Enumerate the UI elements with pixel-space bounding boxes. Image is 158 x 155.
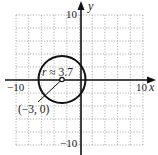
x-min-tick-label: −10 (7, 81, 25, 93)
x-axis-label: x (148, 80, 155, 94)
y-axis-label: y (87, 0, 94, 13)
radius-annotation: r ≈ 3.7 (42, 66, 73, 78)
circle-graph: −10 10 10 −10 x y r ≈ 3.7 (−3, 0) (0, 0, 158, 155)
x-max-tick-label: 10 (136, 81, 148, 93)
y-min-tick-label: −10 (60, 137, 78, 149)
y-axis-arrow-icon (78, 1, 85, 10)
center-point-label: (−3, 0) (18, 103, 50, 116)
radius-value: ≈ 3.7 (46, 66, 73, 78)
y-max-tick-label: 10 (66, 8, 78, 20)
